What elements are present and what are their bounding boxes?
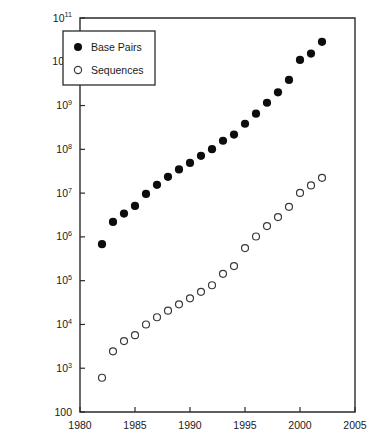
data-point [253, 233, 260, 240]
y-tick-label-6: 108 [56, 142, 72, 155]
data-point [208, 145, 216, 153]
data-point [308, 182, 315, 189]
data-point [252, 110, 260, 118]
data-point [153, 181, 161, 189]
data-point [98, 240, 106, 248]
legend-label-base-pairs: Base Pairs [91, 41, 142, 53]
data-point [165, 307, 172, 314]
data-point [263, 99, 271, 107]
legend-box [63, 31, 155, 85]
data-point [219, 137, 227, 145]
data-point [131, 202, 139, 210]
data-point [220, 270, 227, 277]
x-tick-label-5: 2005 [343, 419, 367, 431]
x-tick-label-1: 1985 [123, 419, 147, 431]
data-point [230, 131, 238, 139]
data-point [264, 223, 271, 230]
data-point [110, 348, 117, 355]
x-tick-label-4: 2000 [288, 419, 312, 431]
x-axis: 198019851990199520002005 [68, 407, 367, 431]
data-point [241, 120, 249, 128]
data-point [154, 314, 161, 321]
data-point [231, 263, 238, 270]
data-point [132, 332, 139, 339]
y-tick-label-5: 107 [56, 186, 72, 199]
chart-container: 10010310410510610710810910101011 1980198… [0, 0, 376, 445]
y-tick-label-7: 109 [56, 98, 72, 111]
data-point [319, 174, 326, 181]
data-point [176, 301, 183, 308]
data-point [197, 152, 205, 160]
data-point [164, 173, 172, 181]
y-tick-label-3: 105 [56, 273, 72, 286]
data-point [187, 295, 194, 302]
data-point [307, 49, 315, 57]
x-tick-label-3: 1995 [233, 419, 257, 431]
data-point [296, 56, 304, 64]
data-point [142, 190, 150, 198]
data-point [297, 189, 304, 196]
y-tick-label-1: 103 [56, 361, 72, 374]
chart-legend: Base Pairs Sequences [63, 31, 155, 85]
data-point [109, 218, 117, 226]
y-tick-label-0: 100 [54, 406, 72, 418]
legend-marker-base-pairs [74, 43, 82, 51]
data-point [120, 210, 128, 218]
data-point [275, 214, 282, 221]
data-point [175, 165, 183, 173]
data-point [242, 245, 249, 252]
y-tick-label-9: 1011 [53, 10, 72, 23]
data-point [274, 88, 282, 96]
data-point [121, 338, 128, 345]
data-point [198, 288, 205, 295]
data-point [143, 321, 150, 328]
x-tick-label-2: 1990 [178, 419, 202, 431]
data-series-layer [98, 38, 326, 381]
data-point [99, 374, 106, 381]
legend-marker-sequences [74, 66, 81, 73]
data-point [285, 76, 293, 84]
data-point [209, 282, 216, 289]
y-tick-label-4: 106 [56, 229, 72, 242]
data-point [318, 38, 326, 46]
growth-scatter-plot: 10010310410510610710810910101011 1980198… [0, 0, 376, 445]
data-point [186, 159, 194, 167]
y-tick-label-2: 104 [56, 317, 72, 330]
legend-label-sequences: Sequences [91, 64, 144, 76]
x-tick-label-0: 1980 [68, 419, 92, 431]
data-point [286, 203, 293, 210]
